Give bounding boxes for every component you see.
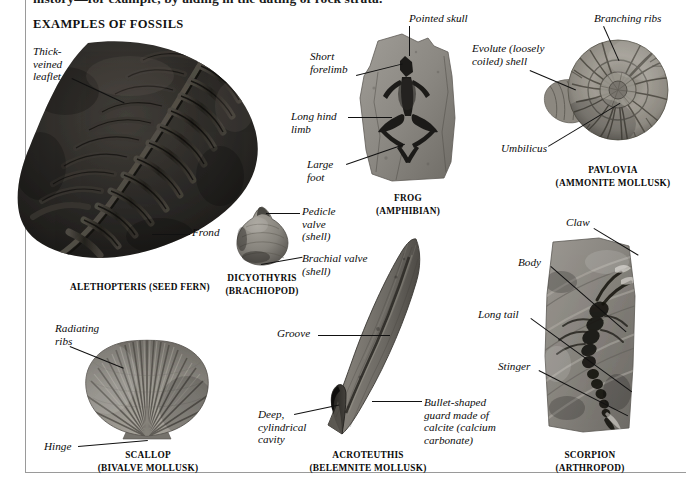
label-short-forelimb: Short forelimb (310, 50, 348, 75)
label-radiating-ribs: Radiating ribs (55, 322, 99, 347)
fossil-plate-page: history—for example, by aiding in the da… (0, 0, 686, 491)
label-umbilicus: Umbilicus (501, 142, 547, 155)
label-evolute-shell: Evolute (loosely coiled) shell (472, 42, 544, 67)
label-long-tail: Long tail (478, 308, 519, 321)
label-groove: Groove (277, 327, 310, 340)
caption-scorpion: SCORPION (ARTHROPOD) (520, 449, 660, 474)
leader-groove (318, 335, 390, 336)
label-thick-veined-leaflet: Thick- veined leaflet (33, 45, 62, 83)
caption-acroteuthis: ACROTEUTHIS (BELEMNITE MOLLUSK) (288, 449, 448, 474)
caption-scallop: SCALLOP (BIVALVE MOLLUSK) (78, 449, 218, 474)
label-claw: Claw (566, 216, 590, 229)
label-large-foot: Large foot (307, 158, 333, 183)
specimen-dicyothyris (234, 205, 292, 267)
label-branching-ribs: Branching ribs (594, 12, 661, 25)
specimen-scorpion (537, 236, 643, 436)
leader-pedicle-valve (266, 213, 300, 214)
caption-dicyothyris: DICYOTHYRIS (BRACHIOPOD) (207, 272, 317, 297)
leader-frond (152, 234, 190, 235)
page-title: EXAMPLES OF FOSSILS (33, 17, 184, 32)
label-frond: Frond (192, 226, 220, 239)
leader-pointed-skull (409, 26, 410, 56)
label-long-hind-limb: Long hind limb (291, 110, 337, 135)
specimen-frog (356, 32, 460, 184)
label-stinger: Stinger (498, 360, 530, 373)
label-hinge: Hinge (44, 440, 71, 453)
label-body: Body (518, 256, 541, 269)
caption-frog: FROG (AMPHIBIAN) (348, 192, 468, 217)
label-bullet-shaped-guard: Bullet-shaped guard made of calcite (cal… (424, 396, 496, 446)
running-body-text: history—for example, by aiding in the da… (33, 0, 593, 7)
leader-long-hind-limb (348, 117, 392, 118)
specimen-scallop (83, 338, 211, 442)
caption-pavlovia: PAVLOVIA (AMMONITE MOLLUSK) (540, 164, 686, 189)
label-pointed-skull: Pointed skull (409, 12, 468, 25)
leader-bullet-shaped-guard (372, 401, 422, 402)
